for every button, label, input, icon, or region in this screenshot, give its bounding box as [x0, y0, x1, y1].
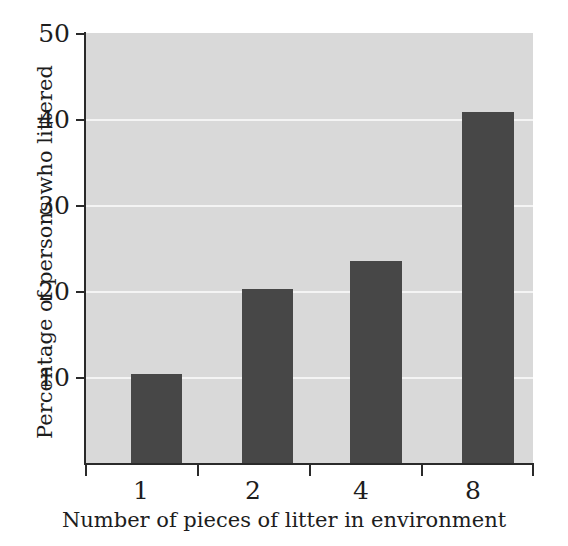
x-tick-mark-4: [532, 465, 534, 476]
y-tick-mark-30: [76, 205, 85, 207]
bar-category-1: [131, 374, 182, 463]
y-tick-mark-50: [76, 33, 85, 35]
y-axis-title: Percentage of persons who littered: [33, 37, 57, 467]
x-tick-mark-1: [197, 465, 199, 476]
x-tick-mark-2: [309, 465, 311, 476]
bar-category-2: [242, 289, 293, 463]
x-tick-mark-3: [421, 465, 423, 476]
plot-area: [85, 33, 533, 463]
x-tick-label-1: 1: [111, 478, 171, 503]
y-tick-mark-40: [76, 119, 85, 121]
x-tick-mark-0: [85, 465, 87, 476]
y-tick-mark-20: [76, 291, 85, 293]
x-tick-label-4: 4: [331, 478, 391, 503]
bar-chart-figure: 50 40 30 20 10 1 2 4 8 Number of pieces …: [0, 0, 568, 546]
x-tick-label-2: 2: [223, 478, 283, 503]
y-axis-line: [84, 32, 86, 465]
x-tick-label-8: 8: [443, 478, 503, 503]
y-tick-mark-10: [76, 377, 85, 379]
x-axis-title: Number of pieces of litter in environmen…: [0, 508, 568, 532]
bar-category-4: [350, 261, 402, 463]
bar-category-8: [462, 112, 514, 463]
